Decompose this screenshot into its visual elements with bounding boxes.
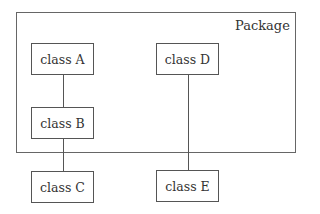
class-b-label: class B: [40, 116, 84, 131]
class-a-label: class A: [40, 52, 84, 67]
package-label: Package: [235, 18, 290, 33]
connector-b-c: [63, 139, 64, 171]
class-e-box: class E: [156, 170, 219, 202]
class-d-box: class D: [156, 43, 219, 75]
class-a-box: class A: [31, 43, 94, 75]
connector-d-e: [188, 74, 189, 170]
class-d-label: class D: [165, 52, 210, 67]
class-b-box: class B: [31, 107, 94, 139]
class-c-box: class C: [31, 171, 94, 203]
connector-a-b: [63, 75, 64, 107]
class-e-label: class E: [165, 179, 209, 194]
class-c-label: class C: [40, 180, 85, 195]
